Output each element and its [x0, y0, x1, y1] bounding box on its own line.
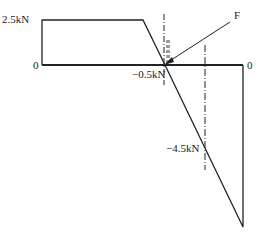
positive-shear-outline	[42, 20, 165, 65]
force-arrow-head	[164, 57, 174, 65]
top-value-label: 2.5kN	[2, 13, 29, 25]
mid-value-label: −0.5kN	[132, 68, 165, 80]
left-zero-label: 0	[33, 59, 39, 71]
bottom-value-label: −4.5kN	[166, 142, 199, 154]
right-zero-label: 0	[247, 59, 253, 71]
force-arrow-shaft	[168, 22, 230, 62]
force-label: F	[234, 9, 240, 21]
shear-force-diagram: 2.5kN 0 0 −0.5kN −4.5kN F	[0, 0, 260, 238]
